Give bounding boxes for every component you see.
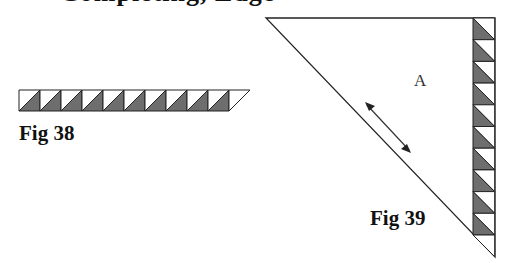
strip-end-triangle bbox=[229, 90, 250, 111]
fig38-strip bbox=[19, 90, 250, 111]
region-label-a: A bbox=[414, 71, 426, 91]
column-end-triangle bbox=[473, 235, 495, 257]
fig39-caption: Fig 39 bbox=[370, 206, 425, 231]
figures-canvas bbox=[0, 0, 509, 263]
fig38-caption: Fig 38 bbox=[19, 121, 74, 146]
